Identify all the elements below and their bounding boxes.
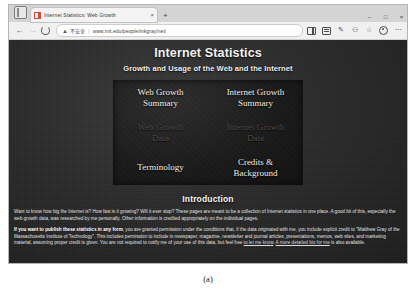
forward-button[interactable]: → <box>26 27 39 35</box>
omnibox-separator: | <box>88 28 90 34</box>
page-subtitle: Growth and Usage of the Web and the Inte… <box>9 64 407 73</box>
warning-triangle-icon: ▲ <box>62 28 68 34</box>
security-label: 不安全 <box>70 27 85 34</box>
introduction-heading: Introduction <box>9 194 407 204</box>
tab-strip: Internet Statistics: Web Growth × + – □ … <box>9 5 407 22</box>
figure-caption: (a) <box>0 274 416 284</box>
address-bar[interactable]: ▲ 不安全 | www.mit.edu/people/mkgray/net/ <box>56 24 303 37</box>
url-text: www.mit.edu/people/mkgray/net/ <box>93 28 167 34</box>
reload-icon <box>41 26 50 35</box>
let-me-know-link[interactable]: to let me know <box>244 240 274 245</box>
nav-cell-terminology[interactable]: Terminology <box>113 150 208 185</box>
nav-cell-web-growth-summary[interactable]: Web GrowthSummary <box>113 80 208 115</box>
minimize-button[interactable]: – <box>366 14 373 20</box>
split-screen-icon[interactable] <box>307 27 316 35</box>
extensions-icon[interactable]: ⚇ <box>351 27 359 34</box>
tab-list-icon[interactable] <box>14 6 27 19</box>
tab-title: Internet Statistics: Web Growth <box>44 12 147 18</box>
edit-pen-icon[interactable]: ✎ <box>337 27 345 34</box>
page-favicon-icon <box>34 12 41 19</box>
close-window-button[interactable]: × <box>398 14 405 20</box>
page-content: Internet Statistics Growth and Usage of … <box>9 40 407 264</box>
back-button[interactable]: ← <box>13 27 26 35</box>
reload-button[interactable] <box>39 26 52 35</box>
intro-paragraph-2: If you want to publish these statistics … <box>14 227 402 247</box>
toolbar-actions: ✎ ⚇ ☆ ⋯ <box>307 26 403 35</box>
navigation-grid: Web GrowthSummary Internet GrowthSummary… <box>113 80 303 185</box>
close-tab-icon[interactable]: × <box>150 12 154 18</box>
introduction-body: Want to know how big the Internet is? Ho… <box>9 204 407 247</box>
browser-window: Internet Statistics: Web Growth × + – □ … <box>8 4 408 264</box>
detailed-bio-link[interactable]: A more detailed bio for me <box>276 240 330 245</box>
figure-container: Internet Statistics: Web Growth × + – □ … <box>0 0 416 289</box>
nav-cell-internet-growth-data[interactable]: Internet GrowthData <box>208 115 303 150</box>
page-title: Internet Statistics <box>9 40 407 60</box>
browser-tab[interactable]: Internet Statistics: Web Growth × <box>31 8 157 22</box>
window-controls: – □ × <box>366 14 405 20</box>
nav-cell-web-growth-data[interactable]: Web GrowthData <box>113 115 208 150</box>
browser-toolbar: ← → ▲ 不安全 | www.mit.edu/people/mkgray/ne… <box>9 22 407 40</box>
nav-cell-credits-background[interactable]: Credits &Background <box>208 150 303 185</box>
paragraph-2-end: is also available. <box>330 240 365 245</box>
collections-icon[interactable] <box>322 27 331 35</box>
favorite-star-icon[interactable]: ☆ <box>365 27 373 34</box>
nav-cell-internet-growth-summary[interactable]: Internet GrowthSummary <box>208 80 303 115</box>
more-menu-icon[interactable]: ⋯ <box>394 27 402 34</box>
new-tab-button[interactable]: + <box>163 12 168 20</box>
publish-permission-bold: If you want to publish these statistics … <box>14 227 123 232</box>
intro-paragraph-1: Want to know how big the Internet is? Ho… <box>14 209 402 222</box>
profile-avatar-icon[interactable] <box>379 26 388 35</box>
maximize-button[interactable]: □ <box>382 14 389 20</box>
